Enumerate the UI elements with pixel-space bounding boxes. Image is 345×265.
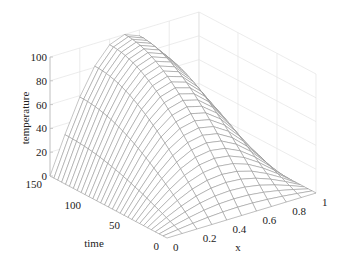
temperature-surface-mesh bbox=[50, 35, 316, 239]
surface-plot: 02040608010005010015000.20.40.60.81 temp… bbox=[0, 0, 345, 265]
time-tick-label: 50 bbox=[109, 219, 121, 231]
x-tick-label: 0.2 bbox=[203, 232, 217, 244]
z-axis-label: temperature bbox=[19, 92, 31, 145]
z-tick-label: 100 bbox=[31, 51, 48, 63]
x-tick-label: 0.4 bbox=[233, 223, 247, 235]
x-tick-label: 1 bbox=[322, 196, 328, 208]
x-tick-label: 0.8 bbox=[292, 205, 306, 217]
z-tick-label: 80 bbox=[36, 75, 48, 87]
z-tick-label: 60 bbox=[36, 99, 48, 111]
x-axis-label: x bbox=[235, 241, 241, 253]
time-tick-label: 0 bbox=[154, 240, 160, 252]
z-tick-label: 40 bbox=[36, 122, 48, 134]
z-tick-label: 0 bbox=[42, 170, 48, 182]
time-axis-label: time bbox=[84, 237, 104, 249]
x-tick-label: 0.6 bbox=[262, 214, 276, 226]
x-tick-label: 0 bbox=[173, 241, 179, 253]
time-tick-label: 100 bbox=[65, 199, 82, 211]
z-tick-label: 20 bbox=[36, 146, 48, 158]
time-tick-label: 150 bbox=[26, 178, 43, 190]
